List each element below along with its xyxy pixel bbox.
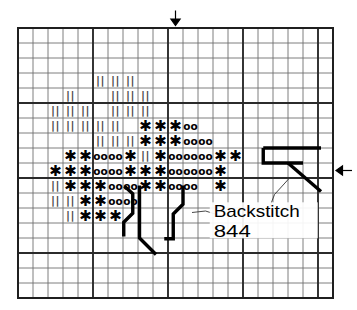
cell-double-o-symbol: oo bbox=[168, 150, 182, 162]
cell-double-bar-symbol: || bbox=[51, 194, 60, 207]
cell-double-bar-symbol: || bbox=[51, 179, 60, 192]
cell-asterisk-symbol: ✱ bbox=[214, 177, 227, 195]
cell-double-o-symbol: oo bbox=[108, 150, 122, 162]
cell-asterisk-symbol: ✱ bbox=[139, 132, 152, 150]
cell-asterisk-symbol: ✱ bbox=[109, 207, 122, 225]
cross-stitch-chart: ||||||||||||||||||||||||||||||||||||✱✱✱o… bbox=[0, 0, 357, 310]
cell-double-o-symbol: oo bbox=[168, 180, 182, 192]
cell-double-bar-symbol: || bbox=[141, 89, 150, 102]
cell-double-bar-symbol: || bbox=[81, 119, 90, 132]
cell-double-o-symbol: oo bbox=[183, 150, 197, 162]
cell-asterisk-symbol: ✱ bbox=[79, 207, 92, 225]
cell-double-bar-symbol: || bbox=[141, 104, 150, 117]
cell-double-o-symbol: oo bbox=[168, 165, 182, 177]
center-marker-right-head bbox=[336, 166, 343, 175]
chart-canvas: ||||||||||||||||||||||||||||||||||||✱✱✱o… bbox=[0, 0, 357, 310]
cell-double-o-symbol: oo bbox=[183, 165, 197, 177]
cell-asterisk-symbol: ✱ bbox=[124, 162, 137, 180]
legend-title: Backstitch bbox=[214, 202, 300, 221]
cell-double-o-symbol: oo bbox=[198, 165, 212, 177]
cell-asterisk-symbol: ✱ bbox=[49, 162, 62, 180]
stem-center-diagonal bbox=[140, 186, 157, 255]
cell-double-o-symbol: oo bbox=[183, 180, 197, 192]
cell-double-bar-symbol: || bbox=[66, 119, 75, 132]
cell-double-bar-symbol: || bbox=[141, 149, 150, 162]
legend-floss-code: 844 bbox=[214, 222, 251, 241]
cell-double-bar-symbol: || bbox=[111, 89, 120, 102]
cell-double-bar-symbol: || bbox=[81, 104, 90, 117]
cell-asterisk-symbol: ✱ bbox=[169, 132, 182, 150]
cell-double-bar-symbol: || bbox=[96, 74, 105, 87]
cell-double-bar-symbol: || bbox=[111, 134, 120, 147]
cell-double-bar-symbol: || bbox=[126, 104, 135, 117]
cell-double-o-symbol: oo bbox=[198, 135, 212, 147]
cell-double-o-symbol: oo bbox=[123, 195, 137, 207]
cell-double-bar-symbol: || bbox=[66, 104, 75, 117]
cell-double-o-symbol: oo bbox=[108, 180, 122, 192]
cell-asterisk-symbol: ✱ bbox=[64, 177, 77, 195]
cell-double-bar-symbol: || bbox=[126, 74, 135, 87]
cell-double-bar-symbol: || bbox=[66, 194, 75, 207]
cell-double-o-symbol: oo bbox=[198, 150, 212, 162]
cell-double-bar-symbol: || bbox=[66, 89, 75, 102]
cell-double-bar-symbol: || bbox=[66, 209, 75, 222]
hook-mid-right bbox=[263, 148, 303, 163]
cell-double-bar-symbol: || bbox=[126, 89, 135, 102]
cell-double-o-symbol: oo bbox=[93, 150, 107, 162]
center-marker-top-head bbox=[171, 19, 180, 26]
cell-asterisk-symbol: ✱ bbox=[229, 147, 242, 165]
cell-double-bar-symbol: || bbox=[111, 74, 120, 87]
cell-double-bar-symbol: || bbox=[96, 119, 105, 132]
cell-double-o-symbol: oo bbox=[183, 135, 197, 147]
cell-double-bar-symbol: || bbox=[96, 134, 105, 147]
cell-double-o-symbol: oo bbox=[108, 195, 122, 207]
cell-double-o-symbol: oo bbox=[183, 120, 197, 132]
cell-asterisk-symbol: ✱ bbox=[154, 177, 167, 195]
cell-double-o-symbol: oo bbox=[108, 165, 122, 177]
cell-double-bar-symbol: || bbox=[51, 104, 60, 117]
cell-double-o-symbol: oo bbox=[93, 165, 107, 177]
cell-double-bar-symbol: || bbox=[111, 119, 120, 132]
cell-double-bar-symbol: || bbox=[51, 119, 60, 132]
cell-asterisk-symbol: ✱ bbox=[94, 207, 107, 225]
cell-double-bar-symbol: || bbox=[111, 104, 120, 117]
cell-double-bar-symbol: || bbox=[126, 134, 135, 147]
backstitch-legend: Backstitch 844 bbox=[210, 202, 318, 241]
